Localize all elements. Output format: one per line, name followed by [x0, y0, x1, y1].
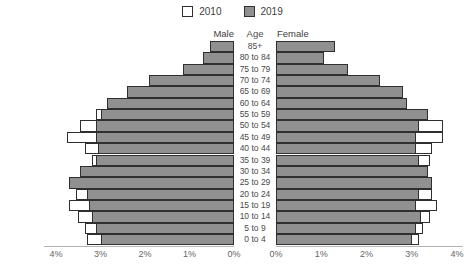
pyramid-row-male [56, 132, 234, 143]
male-2019-bar-10-to-14 [92, 211, 234, 222]
age-group-label: 80 to 84 [234, 52, 276, 63]
male-2019-bar-15-to-19 [89, 200, 234, 211]
pyramid-row-female [276, 120, 457, 131]
male-2019-bar-25-to-29 [69, 177, 234, 188]
female-2019-bar-60-to-64 [276, 98, 407, 109]
male-2019-bar-30-to-34 [80, 166, 234, 177]
female-2019-bar-50-to-54 [276, 120, 419, 131]
female-2019-bar-40-to-44 [276, 143, 416, 154]
female-2019-bar-45-to-49 [276, 132, 416, 143]
male-2019-bar-60-to-64 [107, 98, 234, 109]
female-2019-bar-35-to-39 [276, 155, 419, 166]
female-2019-bar-25-to-29 [276, 177, 432, 188]
pyramid-row-female [276, 155, 457, 166]
male-2019-bar-85+ [210, 41, 234, 52]
age-labels-column: 85+80 to 8475 to 7970 to 7465 to 6960 to… [234, 41, 276, 246]
pyramid-row-male [56, 155, 234, 166]
female-column-header: Female [277, 28, 347, 39]
pyramid-row-male [56, 211, 234, 222]
age-group-label: 0 to 4 [234, 234, 276, 245]
pyramid-row-female [276, 166, 457, 177]
male-2019-bar-65-to-69 [127, 86, 234, 97]
age-group-label: 50 to 54 [234, 120, 276, 131]
male-2019-bar-50-to-54 [96, 120, 234, 131]
pyramid-row-female [276, 177, 457, 188]
female-2019-bar-30-to-34 [276, 166, 428, 177]
age-group-label: 75 to 79 [234, 64, 276, 75]
pyramid-row-male [56, 120, 234, 131]
pyramid-row-female [276, 200, 457, 211]
pyramid-row-male [56, 200, 234, 211]
male-axis-tick-label: 2% [138, 249, 151, 259]
pyramid-row-male [56, 234, 234, 245]
female-2019-bar-5-to-9 [276, 223, 416, 234]
age-group-label: 40 to 44 [234, 143, 276, 154]
pyramid-row-female [276, 143, 457, 154]
age-group-label: 15 to 19 [234, 200, 276, 211]
female-2019-bar-85+ [276, 41, 335, 52]
legend-swatch-2010 [182, 6, 193, 17]
age-group-label: 5 to 9 [234, 223, 276, 234]
female-bars-area [276, 41, 457, 246]
pyramid-row-female [276, 223, 457, 234]
male-axis-tick-label: 3% [94, 249, 107, 259]
age-group-label: 25 to 29 [234, 177, 276, 188]
male-axis-tick-label: 4% [49, 249, 62, 259]
pyramid-row-female [276, 64, 457, 75]
pyramid-row-male [56, 177, 234, 188]
female-2019-bar-70-to-74 [276, 75, 380, 86]
female-2019-bar-15-to-19 [276, 200, 416, 211]
female-axis-ticks: 0%1%2%3%4% [276, 249, 457, 261]
pyramid-row-male [56, 98, 234, 109]
pyramid-row-male [56, 166, 234, 177]
legend-label-2019: 2019 [261, 6, 283, 17]
male-2019-bar-20-to-24 [87, 189, 234, 200]
pyramid-row-female [276, 211, 457, 222]
male-2019-bar-5-to-9 [96, 223, 234, 234]
age-group-label: 55 to 59 [234, 109, 276, 120]
female-2019-bar-0-to-4 [276, 234, 412, 245]
age-group-label: 35 to 39 [234, 155, 276, 166]
age-group-label: 45 to 49 [234, 132, 276, 143]
female-2019-bar-10-to-14 [276, 211, 421, 222]
age-group-label: 85+ [234, 41, 276, 52]
male-2019-bar-80-to-84 [203, 52, 234, 63]
female-2019-bar-75-to-79 [276, 64, 348, 75]
age-group-label: 70 to 74 [234, 75, 276, 86]
population-pyramid-chart: 2010 2019 Male Age Female 85+80 to 8475 … [0, 0, 465, 264]
pyramid-row-female [276, 109, 457, 120]
female-axis-line [276, 246, 463, 247]
age-group-label: 10 to 14 [234, 211, 276, 222]
male-2019-bar-70-to-74 [149, 75, 234, 86]
pyramid-row-male [56, 86, 234, 97]
female-2019-bar-80-to-84 [276, 52, 324, 63]
age-group-label: 60 to 64 [234, 98, 276, 109]
pyramid-row-female [276, 234, 457, 245]
pyramid-row-female [276, 98, 457, 109]
pyramid-row-male [56, 52, 234, 63]
male-axis-ticks: 4%3%2%1%0% [56, 249, 234, 261]
male-axis-line [44, 246, 234, 247]
male-bars-area [56, 41, 234, 246]
legend: 2010 2019 [0, 4, 465, 18]
male-axis-tick-label: 0% [227, 249, 240, 259]
pyramid-row-female [276, 189, 457, 200]
age-group-label: 65 to 69 [234, 86, 276, 97]
male-2019-bar-45-to-49 [96, 132, 234, 143]
legend-swatch-2019 [244, 6, 255, 17]
pyramid-row-female [276, 86, 457, 97]
pyramid-row-female [276, 132, 457, 143]
male-column-header: Male [164, 28, 234, 39]
pyramid-row-female [276, 75, 457, 86]
female-axis-tick-label: 0% [269, 249, 282, 259]
female-axis-tick-label: 4% [450, 249, 463, 259]
male-2019-bar-35-to-39 [96, 155, 234, 166]
pyramid-row-female [276, 52, 457, 63]
pyramid-row-male [56, 109, 234, 120]
female-axis-tick-label: 1% [315, 249, 328, 259]
age-group-label: 30 to 34 [234, 166, 276, 177]
pyramid-row-female [276, 41, 457, 52]
pyramid-row-male [56, 75, 234, 86]
male-2019-bar-75-to-79 [183, 64, 234, 75]
age-column-header: Age [234, 28, 276, 39]
